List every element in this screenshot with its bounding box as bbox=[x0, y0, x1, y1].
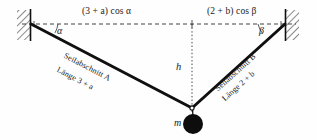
left-wall-support bbox=[17, 9, 31, 41]
right-wall-support bbox=[286, 9, 300, 41]
hanging-mass bbox=[183, 114, 203, 134]
physics-diagram: (3 + a) cos α (2 + b) cos β α β h m Seil… bbox=[0, 0, 317, 140]
label-top-left-projection: (3 + a) cos α bbox=[82, 7, 131, 17]
label-angle-alpha: α bbox=[57, 26, 62, 36]
label-mass-m: m bbox=[174, 118, 181, 128]
label-top-right-projection: (2 + b) cos β bbox=[207, 7, 256, 17]
left-wall-hatching bbox=[17, 10, 30, 40]
rope-segment-a bbox=[31, 24, 192, 108]
label-angle-beta: β bbox=[259, 26, 264, 36]
right-wall-hatching bbox=[286, 10, 299, 40]
diagram-canvas bbox=[0, 0, 317, 140]
rope-junction-knot bbox=[190, 106, 194, 110]
label-height-h: h bbox=[176, 62, 181, 73]
